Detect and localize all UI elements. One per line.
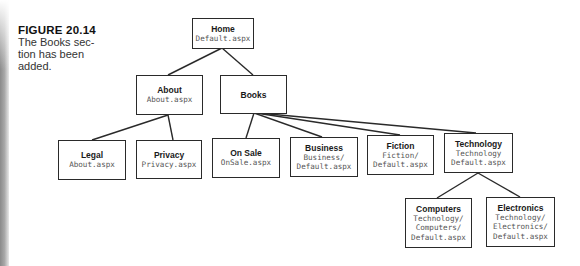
edge-about-legal xyxy=(92,115,168,140)
node-file: Privacy.aspx xyxy=(142,160,197,170)
node-privacy: Privacy Privacy.aspx xyxy=(136,140,202,179)
node-file: About.aspx xyxy=(69,160,115,170)
node-onsale: On Sale OnSale.aspx xyxy=(212,138,280,178)
node-title: Business xyxy=(305,143,343,153)
node-file: Default.aspx xyxy=(297,162,352,172)
edge-books-onsale xyxy=(246,113,254,138)
node-file: Default.aspx xyxy=(451,158,506,168)
node-file: OnSale.aspx xyxy=(221,158,271,168)
edge-about-privacy xyxy=(168,115,173,140)
node-title: Technology xyxy=(455,139,502,149)
node-electronics: Electronics Technology/ Electronics/ Def… xyxy=(486,197,555,247)
node-about: About About.aspx xyxy=(136,75,203,115)
node-file: Business/ xyxy=(303,153,344,163)
node-file: Technology/ xyxy=(413,214,463,224)
node-file: Technology xyxy=(456,149,502,159)
node-file: Technology/ xyxy=(495,213,545,223)
node-technology: Technology Technology Default.aspx xyxy=(444,133,513,173)
node-title: Fiction xyxy=(387,141,415,151)
edge-technology-computers xyxy=(437,173,478,198)
node-fiction: Fiction Fiction/ Default.aspx xyxy=(367,135,434,175)
node-file: Default.aspx xyxy=(196,34,251,44)
node-file: Computers/ xyxy=(416,223,462,233)
node-file: Electronics/ xyxy=(493,222,548,232)
node-business: Business Business/ Default.aspx xyxy=(290,137,358,177)
node-title: Privacy xyxy=(154,150,184,160)
edge-home-books xyxy=(222,48,253,75)
edge-technology-electronics xyxy=(478,173,520,197)
node-file: Fiction/ xyxy=(382,151,419,161)
node-title: Home xyxy=(211,24,235,34)
edge-books-business xyxy=(254,113,322,137)
node-books: Books xyxy=(220,75,287,114)
edge-home-about xyxy=(168,48,222,75)
node-file: About.aspx xyxy=(147,95,193,105)
node-title: Electronics xyxy=(498,203,544,213)
node-title: On Sale xyxy=(230,148,262,158)
node-file: Default.aspx xyxy=(411,233,466,243)
node-computers: Computers Technology/ Computers/ Default… xyxy=(405,198,472,248)
node-title: Computers xyxy=(416,204,461,214)
node-file: Default.aspx xyxy=(373,160,428,170)
node-title: Legal xyxy=(81,150,103,160)
node-legal: Legal About.aspx xyxy=(58,140,126,180)
node-home: Home Default.aspx xyxy=(192,18,254,49)
node-title: About xyxy=(157,85,182,95)
node-title: Books xyxy=(241,90,267,100)
node-file: Default.aspx xyxy=(493,232,548,242)
